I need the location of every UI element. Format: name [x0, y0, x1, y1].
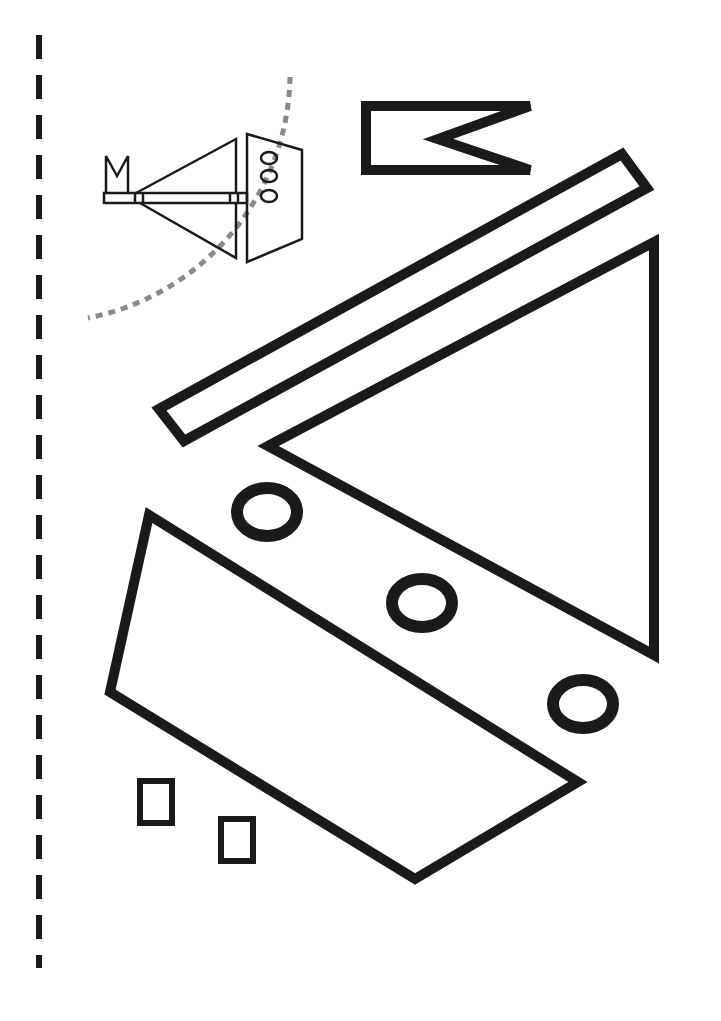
craft-sheet [0, 0, 721, 1021]
hull-piece[interactable] [110, 515, 578, 879]
porthole-ring-1[interactable] [237, 488, 297, 536]
mast-piece[interactable] [159, 154, 647, 441]
sail-piece[interactable] [268, 242, 654, 655]
block-piece-2[interactable] [221, 819, 253, 861]
block-piece-1[interactable] [140, 781, 172, 823]
flag-piece[interactable] [366, 106, 530, 170]
preview-guide-arc [88, 77, 290, 318]
porthole-ring-3[interactable] [553, 680, 613, 728]
preview-boat-icon [104, 134, 302, 262]
porthole-ring-2[interactable] [392, 579, 452, 627]
